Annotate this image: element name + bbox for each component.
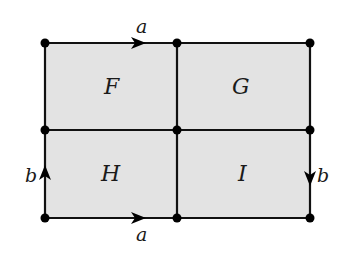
face-label-I: I bbox=[237, 161, 248, 186]
vertex bbox=[173, 126, 182, 135]
vertex bbox=[306, 39, 315, 48]
edge-label-left-b: b bbox=[25, 164, 37, 186]
vertex bbox=[173, 39, 182, 48]
vertex bbox=[41, 39, 50, 48]
vertex bbox=[41, 214, 50, 223]
vertex bbox=[306, 214, 315, 223]
edge-label-right-b: b bbox=[317, 164, 329, 186]
cell-complex-diagram: F G H I a a b b bbox=[0, 0, 340, 253]
edge-label-top-a: a bbox=[136, 15, 147, 37]
vertex bbox=[306, 126, 315, 135]
vertex bbox=[41, 126, 50, 135]
face-label-F: F bbox=[103, 74, 120, 99]
vertex bbox=[173, 214, 182, 223]
edge-label-bottom-a: a bbox=[136, 223, 147, 245]
face-label-G: G bbox=[232, 74, 250, 99]
face-label-H: H bbox=[100, 161, 121, 186]
